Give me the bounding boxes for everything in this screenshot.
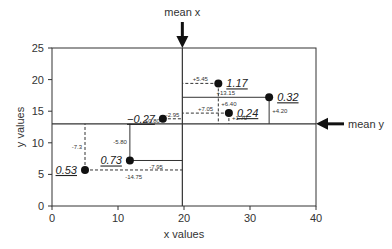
y-tick-label: 5 [38,168,44,180]
dx-label: +5.45 [193,76,209,82]
data-point [265,93,273,101]
y-tick-label: 10 [32,137,44,149]
dx-label: -2.95 [166,112,180,118]
dy-label: -5.80 [113,139,127,145]
mean-y-label: mean y [348,118,385,130]
point-value-label: −0.27 [127,113,156,125]
point-value-label: 0.24 [237,107,258,119]
x-tick-label: 30 [244,212,256,224]
data-point [214,79,222,87]
x-tick-label: 20 [178,212,190,224]
x-tick-label: 40 [310,212,322,224]
dy-label: +4.20 [272,108,288,114]
dx-label: +13.15 [216,90,235,96]
plot-frame [52,48,316,206]
mean-x-arrow-icon [176,36,188,48]
data-point [81,166,89,174]
data-point [126,156,134,164]
y-axis-label: y values [14,106,26,147]
mean-y-arrow-icon [316,118,328,130]
dx-label: +7.05 [198,106,214,112]
x-axis-label: x values [164,228,205,240]
x-tick-label: 10 [112,212,124,224]
point-value-label: 0.32 [277,91,298,103]
scatter-chart: 0102030400510152025x valuesy valuesmean … [0,0,392,249]
y-tick-label: 0 [38,200,44,212]
point-value-label: 1.17 [226,77,248,89]
x-tick-label: 0 [49,212,55,224]
y-tick-label: 15 [32,105,44,117]
point-value-label: 0.53 [56,164,78,176]
dy-label: -7.3 [72,144,83,150]
dx-label: -14.75 [125,174,143,180]
dx-label: -7.95 [149,164,163,170]
mean-x-label: mean x [164,6,201,18]
dy-label: +6.40 [221,101,237,107]
y-tick-label: 20 [32,74,44,86]
point-value-label: 0.73 [100,154,122,166]
y-tick-label: 25 [32,42,44,54]
